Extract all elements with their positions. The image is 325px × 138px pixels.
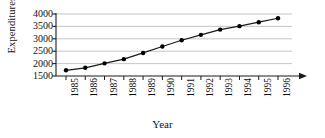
data-point-marker — [102, 61, 106, 65]
x-tick-label: 1995 — [263, 78, 273, 97]
x-tick-label: 1993 — [224, 78, 234, 97]
y-axis-title: Expenditures ($) — [6, 0, 17, 61]
x-tick-label: 1985 — [70, 78, 80, 97]
y-tick-label: 3000 — [17, 34, 53, 44]
data-point-marker — [83, 66, 87, 70]
data-point-marker — [141, 51, 145, 55]
plot-svg — [56, 14, 308, 76]
x-tick-label: 1988 — [128, 78, 138, 97]
x-tick-label: 1991 — [186, 78, 196, 97]
expenditures-line-chart: Expenditures ($) 15002000250030003500400… — [0, 0, 325, 138]
x-tick-label: 1987 — [109, 78, 119, 97]
data-point-marker — [122, 57, 126, 61]
x-tick-label: 1989 — [147, 78, 157, 97]
y-tick-label: 2500 — [17, 46, 53, 56]
x-tick-label: 1994 — [243, 78, 253, 97]
x-tick-label: 1990 — [166, 78, 176, 97]
x-axis-arrow-icon — [299, 73, 307, 79]
x-tick-label: 1996 — [282, 78, 292, 97]
y-tick-label: 3500 — [17, 21, 53, 31]
x-axis-title: Year — [0, 118, 325, 130]
y-tick-label: 1500 — [17, 71, 53, 81]
x-tick-label: 1986 — [89, 78, 99, 97]
data-point-marker — [218, 27, 222, 31]
y-tick-label: 2000 — [17, 59, 53, 69]
data-point-marker — [179, 38, 183, 42]
data-point-marker — [199, 33, 203, 37]
plot-area — [56, 14, 297, 76]
data-point-marker — [160, 44, 164, 48]
data-point-marker — [237, 24, 241, 28]
x-tick-label: 1992 — [205, 78, 215, 97]
data-point-marker — [276, 16, 280, 20]
x-axis-tick-labels: 1985198619871988198919901991199219931994… — [56, 78, 297, 112]
data-point-marker — [64, 68, 68, 72]
data-point-marker — [257, 20, 261, 24]
y-tick-label: 4000 — [17, 9, 53, 19]
